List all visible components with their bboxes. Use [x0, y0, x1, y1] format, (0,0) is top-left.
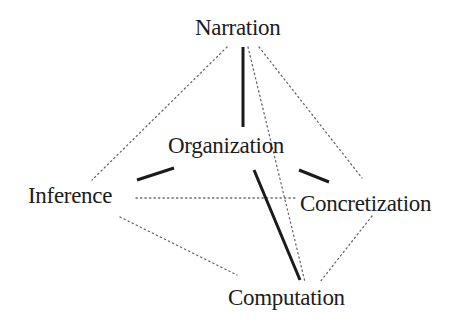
- dotted-edge-inference-computation: [120, 217, 237, 275]
- concept-tetrahedron-diagram: Narration Organization Inference Concret…: [0, 0, 475, 331]
- solid-edge-organization-concretization: [299, 170, 329, 182]
- node-organization: Organization: [168, 134, 284, 157]
- node-computation: Computation: [228, 286, 345, 309]
- solid-edge-organization-inference: [137, 168, 174, 180]
- dotted-edge-concretization-computation: [320, 216, 372, 282]
- node-narration: Narration: [195, 16, 280, 39]
- solid-edge-organization-computation: [254, 170, 300, 280]
- dotted-edge-narration-computation: [248, 47, 305, 282]
- dotted-edge-narration-inference: [92, 47, 227, 180]
- dotted-edge-narration-concretization: [259, 47, 362, 178]
- node-inference: Inference: [28, 184, 112, 207]
- edges-layer: [0, 0, 475, 331]
- node-concretization: Concretization: [300, 192, 431, 215]
